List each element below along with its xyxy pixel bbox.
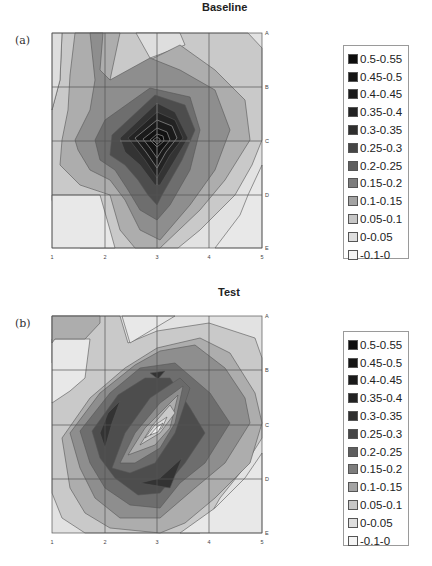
legend-item: 0.25-0.3 — [348, 425, 404, 443]
y-tick: A — [265, 313, 269, 319]
legend-swatch — [348, 214, 358, 224]
legend-item: 0.05-0.1 — [348, 210, 404, 228]
legend-item: 0.2-0.25 — [348, 443, 404, 461]
legend-item: -0.1-0 — [348, 532, 404, 550]
legend-item: 0.1-0.15 — [348, 192, 404, 210]
x-tick: 5 — [260, 254, 263, 260]
legend-item: 0.45-0.5 — [348, 68, 404, 86]
legend: 0.5-0.55 0.45-0.5 0.4-0.45 0.35-0.4 0.3-… — [343, 45, 409, 259]
legend-item: 0.3-0.35 — [348, 407, 404, 425]
y-tick: B — [265, 84, 269, 90]
legend-swatch — [348, 464, 358, 474]
legend-swatch — [348, 125, 358, 135]
y-tick: A — [265, 30, 269, 36]
legend-item: 0.15-0.2 — [348, 461, 404, 479]
legend-item: 0-0.05 — [348, 514, 404, 532]
legend-swatch — [348, 89, 358, 99]
y-tick: C — [265, 138, 269, 144]
legend-swatch — [348, 500, 358, 510]
x-tick: 2 — [103, 254, 106, 260]
x-tick: 1 — [50, 254, 53, 260]
legend-item: 0.45-0.5 — [348, 354, 404, 372]
legend-swatch — [348, 482, 358, 492]
legend-item: -0.1-0 — [348, 246, 404, 264]
y-tick: D — [265, 476, 269, 482]
legend-item: 0.4-0.45 — [348, 86, 404, 104]
legend-item: 0.05-0.1 — [348, 496, 404, 514]
legend: 0.5-0.55 0.45-0.5 0.4-0.45 0.35-0.4 0.3-… — [343, 331, 409, 546]
legend-item: 0.15-0.2 — [348, 175, 404, 193]
legend-item: 0.35-0.4 — [348, 103, 404, 121]
legend-item: 0.35-0.4 — [348, 389, 404, 407]
legend-swatch — [348, 196, 358, 206]
legend-item: 0.5-0.55 — [348, 50, 404, 68]
panel-test: Test (b) — [0, 283, 432, 566]
legend-item: 0.3-0.35 — [348, 121, 404, 139]
legend-swatch — [348, 429, 358, 439]
legend-item: 0.5-0.55 — [348, 336, 404, 354]
legend-item: 0.4-0.45 — [348, 372, 404, 390]
legend-swatch — [348, 375, 358, 385]
legend-swatch — [348, 393, 358, 403]
y-tick: C — [265, 422, 269, 428]
legend-swatch — [348, 178, 358, 188]
x-tick: 3 — [155, 254, 158, 260]
legend-swatch — [348, 447, 358, 457]
legend-item: 0.2-0.25 — [348, 157, 404, 175]
x-tick: 4 — [207, 254, 210, 260]
legend-swatch — [348, 107, 358, 117]
legend-swatch — [348, 411, 358, 421]
legend-swatch — [348, 250, 358, 260]
x-tick: 3 — [155, 539, 158, 545]
y-tick: E — [265, 245, 269, 251]
legend-item: 0-0.05 — [348, 228, 404, 246]
legend-swatch — [348, 340, 358, 350]
x-tick: 4 — [207, 539, 210, 545]
y-tick: B — [265, 367, 269, 373]
legend-swatch — [348, 161, 358, 171]
legend-swatch — [348, 518, 358, 528]
legend-item: 0.25-0.3 — [348, 139, 404, 157]
panel-baseline: Baseline (a) — [0, 0, 432, 283]
x-tick: 1 — [50, 539, 53, 545]
x-tick: 5 — [260, 539, 263, 545]
legend-swatch — [348, 72, 358, 82]
legend-swatch — [348, 54, 358, 64]
y-tick: E — [265, 530, 269, 536]
y-tick: D — [265, 192, 269, 198]
legend-swatch — [348, 358, 358, 368]
legend-swatch — [348, 232, 358, 242]
legend-item: 0.1-0.15 — [348, 478, 404, 496]
legend-swatch — [348, 143, 358, 153]
x-tick: 2 — [103, 539, 106, 545]
legend-swatch — [348, 536, 358, 546]
